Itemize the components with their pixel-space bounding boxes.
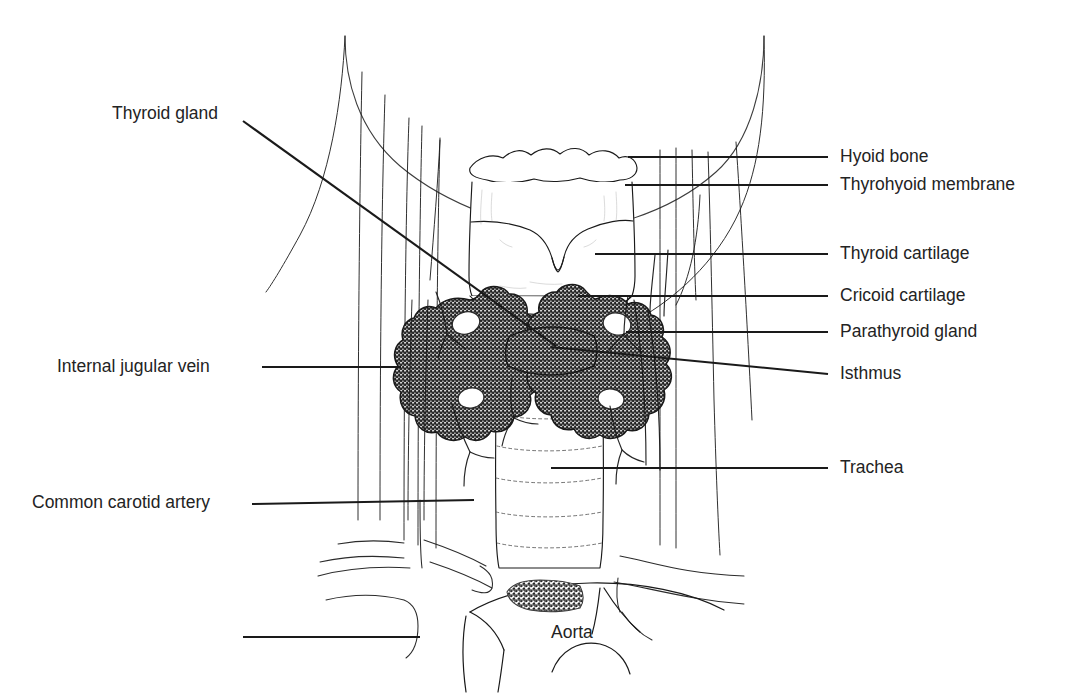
right-lateral-contour (640, 36, 764, 318)
label-thyroid-cartilage: Thyroid cartilage (840, 245, 969, 263)
label-thyroid-gland: Thyroid gland (112, 105, 218, 123)
clavicle-right (614, 556, 744, 640)
left-lateral-contour (266, 36, 440, 292)
label-internal-jugular-vein: Internal jugular vein (57, 358, 210, 376)
label-parathyroid-gland: Parathyroid gland (840, 323, 977, 341)
common-carotid-artery-leader (252, 500, 474, 504)
thyroid-cartilage-shape (469, 182, 635, 296)
label-common-carotid-artery: Common carotid artery (32, 494, 210, 512)
label-aorta: Aorta (551, 624, 593, 642)
right-neck-muscles (660, 142, 752, 555)
label-cricoid-cartilage: Cricoid cartilage (840, 287, 965, 305)
aorta-stipple-patch (507, 580, 583, 612)
label-trachea: Trachea (840, 459, 904, 477)
aortic-arch (463, 583, 724, 692)
clavicle-left (318, 541, 418, 658)
label-thyrohyoid-membrane: Thyrohyoid membrane (840, 176, 1015, 194)
anatomy-figure: Thyroid gland Internal jugular vein Comm… (0, 0, 1079, 697)
label-hyoid-bone: Hyoid bone (840, 148, 929, 166)
hyoid-bone-shape (470, 148, 637, 182)
label-isthmus: Isthmus (840, 365, 901, 383)
sternum-left-edge (420, 500, 493, 593)
